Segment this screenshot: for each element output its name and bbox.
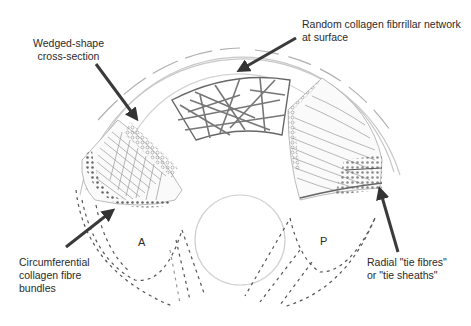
label-radial-line2: or "tie sheaths" <box>367 269 447 282</box>
label-radial-line1: Radial "tie fibres" <box>367 256 447 269</box>
label-wedge-line1: Wedged-shape <box>33 37 104 50</box>
inner-rim <box>195 195 285 285</box>
label-circumferential-bundles: Circumferential collagen fibre bundles <box>19 256 90 295</box>
label-radial-tie-fibres: Radial "tie fibres" or "tie sheaths" <box>367 256 447 282</box>
label-circ-line3: bundles <box>19 282 90 295</box>
radial-arrow <box>380 190 398 252</box>
circumferential-arrow <box>66 211 112 247</box>
label-wedge-cross-section: Wedged-shape cross-section <box>33 37 104 63</box>
posterior-wedge <box>288 78 382 200</box>
label-random-network: Random collagen fibrrillar network at su… <box>302 18 461 44</box>
label-random-line1: Random collagen fibrrillar network <box>302 18 461 31</box>
label-random-line2: at surface <box>302 31 461 44</box>
wedge-arrow <box>96 64 136 118</box>
label-circ-line2: collagen fibre <box>19 269 90 282</box>
label-circ-line1: Circumferential <box>19 256 90 269</box>
label-anterior-horn: A <box>138 236 145 249</box>
anterior-wedge <box>82 120 182 208</box>
surface-network <box>172 78 290 141</box>
label-posterior-horn: P <box>320 235 327 248</box>
label-wedge-line2: cross-section <box>33 50 104 63</box>
